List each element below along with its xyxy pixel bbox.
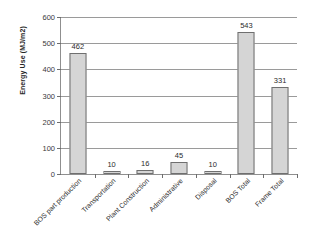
bar-value-label: 45 — [175, 151, 183, 160]
y-axis-tick-label: 0 — [51, 170, 55, 179]
bar-value-label: 462 — [72, 42, 85, 51]
bar[interactable] — [170, 162, 187, 174]
y-axis-tick-label: 200 — [42, 117, 55, 126]
y-axis-title: Energy Use (MJ/m2) — [19, 0, 26, 131]
x-axis-tick-label: BOS part production — [33, 177, 83, 227]
bar-value-label: 16 — [141, 159, 149, 168]
x-axis-tick-mark — [263, 174, 264, 178]
bar[interactable] — [238, 32, 255, 174]
y-axis-tick-label: 600 — [42, 13, 55, 22]
y-axis-tick-label: 300 — [42, 91, 55, 100]
bar-group: 45Administrative — [162, 17, 196, 174]
x-axis-tick-mark — [128, 174, 129, 178]
bar-group: 543BOS Total — [230, 17, 264, 174]
bar-group: 16Plant Construction — [128, 17, 162, 174]
x-axis-tick-mark — [162, 174, 163, 178]
bar[interactable] — [204, 171, 221, 174]
bar[interactable] — [137, 170, 154, 174]
x-axis-tick-label: Transportation — [80, 177, 117, 214]
plot-area: 6005004003002001000462BOS part productio… — [60, 17, 297, 175]
bar[interactable] — [272, 87, 289, 174]
x-axis-tick-label: Administrative — [148, 177, 184, 213]
y-axis-tick-label: 500 — [42, 39, 55, 48]
y-axis-tick-label: 400 — [42, 65, 55, 74]
x-axis-tick-mark — [230, 174, 231, 178]
x-axis-tick-label: BOS Total — [224, 177, 251, 204]
bar-group: 462BOS part production — [61, 17, 95, 174]
bar-group: 331Frame Total — [263, 17, 297, 174]
bar[interactable] — [103, 171, 120, 174]
x-axis-tick-mark — [297, 174, 298, 178]
x-axis-tick-mark — [196, 174, 197, 178]
bar-value-label: 543 — [240, 21, 253, 30]
bar-group: 10Transportation — [95, 17, 129, 174]
x-axis-tick-label: Disposal — [194, 177, 218, 201]
bar-group: 10Disposal — [196, 17, 230, 174]
x-axis-tick-label: Frame Total — [254, 177, 285, 208]
bar-value-label: 10 — [209, 160, 217, 169]
bar[interactable] — [69, 53, 86, 174]
bar-chart: Energy Use (MJ/m2) 600500400300200100046… — [0, 0, 310, 247]
y-axis-tick-label: 100 — [42, 143, 55, 152]
bar-value-label: 10 — [107, 160, 115, 169]
bar-value-label: 331 — [274, 76, 287, 85]
x-axis-tick-mark — [95, 174, 96, 178]
y-axis-tick-mark — [57, 174, 61, 175]
